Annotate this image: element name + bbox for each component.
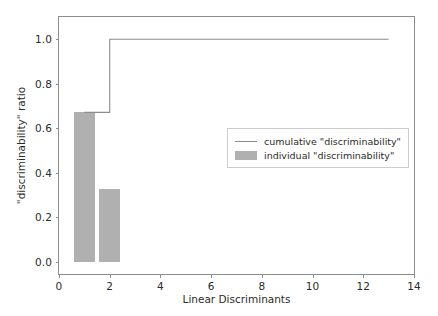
y-tick-mark [56, 217, 60, 218]
legend-swatch-icon [235, 151, 257, 160]
chart-legend: cumulative "discriminability"individual … [227, 128, 409, 168]
y-tick-label: 1.0 [35, 33, 52, 45]
y-tick-mark [56, 128, 60, 129]
y-tick-mark [56, 39, 60, 40]
x-tick-label: 12 [357, 280, 371, 292]
y-axis-label: "discriminability" ratio [13, 16, 29, 275]
legend-entry: individual "discriminability" [235, 148, 401, 162]
step-path [84, 39, 388, 112]
x-tick-mark [313, 274, 314, 278]
y-tick-mark [56, 262, 60, 263]
x-tick-mark [59, 274, 60, 278]
x-tick-mark [262, 274, 263, 278]
y-tick-label: 0.8 [35, 78, 52, 90]
x-tick-mark [110, 274, 111, 278]
x-tick-label: 0 [56, 280, 63, 292]
x-tick-mark [160, 274, 161, 278]
legend-entry: cumulative "discriminability" [235, 134, 401, 148]
y-tick-mark [56, 84, 60, 85]
x-tick-mark [414, 274, 415, 278]
y-tick-label: 0.6 [35, 122, 52, 134]
y-tick-label: 0.4 [35, 167, 52, 179]
x-tick-label: 4 [157, 280, 164, 292]
x-tick-label: 10 [306, 280, 320, 292]
x-tick-label: 6 [208, 280, 215, 292]
chart-figure: 0.00.20.40.60.81.002468101214 "discrimin… [0, 0, 438, 316]
x-tick-label: 2 [106, 280, 113, 292]
x-axis-label: Linear Discriminants [58, 293, 415, 305]
y-tick-mark [56, 173, 60, 174]
legend-label: cumulative "discriminability" [264, 136, 401, 147]
y-tick-label: 0.0 [35, 256, 52, 268]
legend-line-icon [235, 135, 257, 147]
x-tick-label: 8 [258, 280, 265, 292]
x-tick-label: 14 [407, 280, 421, 292]
x-tick-mark [363, 274, 364, 278]
x-tick-mark [211, 274, 212, 278]
legend-label: individual "discriminability" [264, 150, 394, 161]
y-tick-label: 0.2 [35, 211, 52, 223]
